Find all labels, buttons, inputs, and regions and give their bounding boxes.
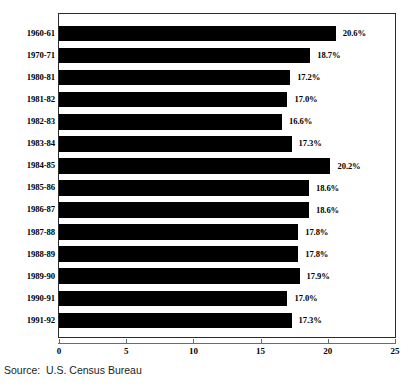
bar <box>59 291 287 307</box>
bar-value-label: 17.8% <box>305 246 328 262</box>
bar-row: 16.6% <box>59 111 395 133</box>
bar-value-label: 17.3% <box>299 135 322 151</box>
category-label: 1983-84 <box>0 138 55 148</box>
bar <box>59 313 292 329</box>
category-label: 1989-90 <box>0 271 55 281</box>
bar-row: 17.3% <box>59 133 395 155</box>
bar-value-label: 17.8% <box>305 224 328 240</box>
value-axis-tick <box>59 339 60 344</box>
bar-value-label: 18.6% <box>316 202 339 218</box>
category-label: 1984-85 <box>0 160 55 170</box>
value-axis-tick-label: 20 <box>308 346 348 357</box>
bar-row: 17.8% <box>59 243 395 265</box>
bar-row: 17.8% <box>59 221 395 243</box>
bar <box>59 246 298 262</box>
bar-value-label: 20.2% <box>337 158 360 174</box>
bar-value-label: 17.9% <box>307 268 330 284</box>
value-axis-tick-label: 5 <box>106 346 146 357</box>
category-label: 1970-71 <box>0 50 55 60</box>
bar <box>59 268 300 284</box>
bar-value-label: 17.0% <box>294 91 317 107</box>
source-note: Source: U.S. Census Bureau <box>4 364 142 377</box>
category-label: 1986-87 <box>0 204 55 214</box>
value-axis-tick <box>261 339 262 344</box>
bar <box>59 136 292 152</box>
category-label: 1980-81 <box>0 72 55 82</box>
bar <box>59 26 336 42</box>
value-axis-tick-label: 25 <box>375 346 414 357</box>
category-label: 1990-91 <box>0 293 55 303</box>
bar-row: 18.6% <box>59 199 395 221</box>
bar-chart-figure: 1960-611970-711980-811981-821982-831983-… <box>0 0 414 387</box>
bar-value-label: 17.2% <box>297 69 320 85</box>
bar-value-label: 20.6% <box>343 25 366 41</box>
category-label: 1987-88 <box>0 227 55 237</box>
bar-value-label: 18.6% <box>316 180 339 196</box>
value-axis-tick <box>395 339 396 344</box>
category-axis-labels: 1960-611970-711980-811981-821982-831983-… <box>0 14 55 337</box>
bar-row: 18.6% <box>59 177 395 199</box>
bar-value-label: 16.6% <box>289 113 312 129</box>
category-label: 1981-82 <box>0 94 55 104</box>
bars-layer: 20.6%18.7%17.2%17.0%16.6%17.3%20.2%18.6%… <box>59 14 395 337</box>
bar-value-label: 18.7% <box>317 47 340 63</box>
value-axis-tick-label: 10 <box>173 346 213 357</box>
bar-row: 17.9% <box>59 265 395 287</box>
category-label: 1985-86 <box>0 182 55 192</box>
bar-row: 18.7% <box>59 45 395 67</box>
bar-row: 20.2% <box>59 155 395 177</box>
bar-row: 17.2% <box>59 67 395 89</box>
bar <box>59 48 310 64</box>
category-label: 1988-89 <box>0 249 55 259</box>
value-axis-tick <box>193 339 194 344</box>
bar-value-label: 17.0% <box>294 290 317 306</box>
value-axis-tick-label: 15 <box>241 346 281 357</box>
value-axis-tick-label: 0 <box>39 346 79 357</box>
bar <box>59 114 282 130</box>
category-label: 1991-92 <box>0 315 55 325</box>
bar-value-label: 17.3% <box>299 312 322 328</box>
bar <box>59 202 309 218</box>
bar <box>59 158 330 174</box>
bar <box>59 70 290 86</box>
bar-row: 17.0% <box>59 287 395 309</box>
bar-row: 17.0% <box>59 89 395 111</box>
bar <box>59 224 298 240</box>
value-axis-line <box>58 343 396 344</box>
category-label: 1960-61 <box>0 28 55 38</box>
bar <box>59 180 309 196</box>
bar-row: 20.6% <box>59 23 395 45</box>
bar <box>59 92 287 108</box>
value-axis-tick <box>328 339 329 344</box>
category-label: 1982-83 <box>0 116 55 126</box>
bar-row: 17.3% <box>59 309 395 331</box>
value-axis-tick <box>126 339 127 344</box>
